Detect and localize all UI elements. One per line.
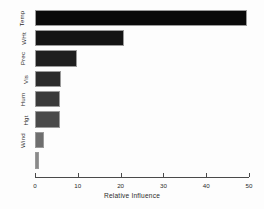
x-axis-tick-label: 30 — [160, 182, 167, 189]
bar-row — [35, 151, 249, 171]
y-axis-tick-label: Wind — [0, 130, 34, 150]
bar — [35, 71, 61, 87]
x-axis-tick-label: 20 — [117, 182, 124, 189]
y-axis-tick-label: Hum — [0, 90, 34, 110]
x-axis-tick — [35, 173, 36, 177]
relative-influence-bar-chart: TempWHtPrecVisHumHgtWind 01020304050 Rel… — [0, 0, 264, 209]
bar — [35, 132, 44, 148]
bar-row — [35, 28, 249, 48]
bar — [35, 10, 247, 26]
bar — [35, 111, 60, 127]
x-axis-tick — [206, 173, 207, 177]
x-axis-line: 01020304050 — [35, 177, 249, 178]
x-axis-tick-label: 10 — [74, 182, 81, 189]
bar-row — [35, 8, 249, 28]
bar-row — [35, 69, 249, 89]
bar-row — [35, 90, 249, 110]
bar — [35, 91, 60, 107]
x-axis-tick — [249, 173, 250, 177]
y-axis-tick-label — [0, 151, 34, 171]
plot-area — [35, 8, 249, 171]
x-axis-tick-label: 0 — [33, 182, 36, 189]
bar — [35, 50, 77, 66]
bar-row — [35, 49, 249, 69]
bar-row — [35, 110, 249, 130]
x-axis-tick — [163, 173, 164, 177]
x-axis-tick — [121, 173, 122, 177]
x-axis-tick — [78, 173, 79, 177]
y-axis-tick-label: Hgt — [0, 110, 34, 130]
y-axis-labels: TempWHtPrecVisHumHgtWind — [0, 8, 34, 171]
y-axis-tick-label: Vis — [0, 69, 34, 89]
x-axis-title: Relative Influence — [0, 192, 264, 199]
y-axis-tick-label: WHt — [0, 28, 34, 48]
bar — [35, 152, 39, 168]
x-axis-tick-label: 50 — [246, 182, 253, 189]
x-axis-tick-label: 40 — [203, 182, 210, 189]
bar-row — [35, 130, 249, 150]
y-axis-tick-label: Temp — [0, 8, 34, 28]
y-axis-tick-label: Prec — [0, 49, 34, 69]
bar — [35, 30, 124, 46]
